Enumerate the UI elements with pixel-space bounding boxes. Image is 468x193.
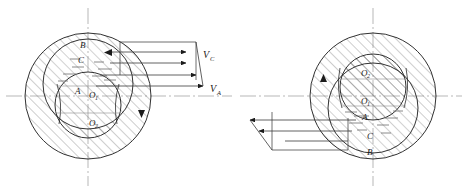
left-point-A: A <box>74 86 81 96</box>
bearing-velocity-diagram: B C A O 1 O 2 V C V A <box>0 0 468 193</box>
svg-text:1: 1 <box>367 101 370 107</box>
svg-text:2: 2 <box>95 123 98 129</box>
svg-text:1: 1 <box>95 95 98 101</box>
right-point-C: C <box>367 131 374 141</box>
left-point-C: C <box>78 55 85 65</box>
right-point-A: A <box>361 112 368 122</box>
svg-text:C: C <box>210 55 215 62</box>
right-point-B: B <box>367 147 373 157</box>
diagram-canvas: B C A O 1 O 2 V C V A <box>0 0 468 193</box>
svg-text:2: 2 <box>367 73 370 79</box>
left-point-B: B <box>80 40 86 50</box>
svg-text:A: A <box>216 89 221 96</box>
